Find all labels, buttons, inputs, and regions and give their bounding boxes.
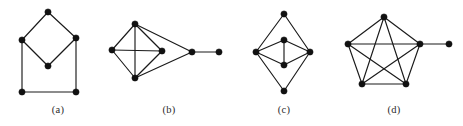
vertex-b-bottom bbox=[132, 75, 138, 81]
edge-a-a-top-a-left bbox=[22, 12, 48, 40]
edge-a-a-right-a-center bbox=[48, 38, 76, 66]
edge-d-d-top-d-left bbox=[348, 17, 384, 44]
vertex-a-center bbox=[45, 63, 51, 69]
vertex-d-bottom-left bbox=[359, 81, 365, 87]
vertex-b-joint bbox=[189, 49, 195, 55]
vertex-b-end bbox=[216, 49, 222, 55]
vertices-layer bbox=[19, 9, 452, 95]
edge-b-b-left-b-top bbox=[112, 24, 135, 50]
vertex-c-right bbox=[307, 49, 313, 55]
edge-a-a-left-a-center bbox=[22, 40, 48, 66]
vertex-b-left bbox=[109, 47, 115, 53]
edge-d-d-top-d-bottom-right bbox=[384, 17, 406, 84]
edge-b-b-bottom-b-mid-right bbox=[135, 51, 162, 78]
edge-b-b-bottom-b-joint bbox=[135, 52, 192, 78]
edge-d-d-right-d-bottom-right bbox=[406, 44, 420, 84]
edge-b-b-top-b-mid-right bbox=[135, 24, 162, 51]
vertex-b-top bbox=[132, 21, 138, 27]
vertex-c-bottom bbox=[281, 88, 287, 94]
edge-d-d-top-d-right bbox=[384, 17, 420, 44]
vertex-c-lower-mid bbox=[281, 62, 287, 68]
edge-b-b-left-b-bottom bbox=[112, 50, 135, 78]
edge-b-b-top-b-joint bbox=[135, 24, 192, 52]
edge-d-d-left-d-bottom-right bbox=[348, 44, 406, 84]
vertex-a-right bbox=[73, 35, 79, 41]
edge-a-a-top-a-right bbox=[48, 12, 76, 38]
edge-d-d-left-d-bottom-left bbox=[348, 44, 362, 84]
edges-layer bbox=[22, 12, 449, 92]
edge-d-d-right-d-bottom-left bbox=[362, 44, 420, 84]
vertex-a-left bbox=[19, 37, 25, 43]
vertex-d-left bbox=[345, 41, 351, 47]
vertex-d-right bbox=[417, 41, 423, 47]
panel-caption-a: (a) bbox=[38, 104, 78, 115]
vertex-c-upper-mid bbox=[281, 37, 287, 43]
panel-caption-c: (c) bbox=[264, 104, 304, 115]
panel-caption-b: (b) bbox=[149, 104, 189, 115]
vertex-c-top bbox=[281, 11, 287, 17]
edge-d-d-top-d-bottom-left bbox=[362, 17, 384, 84]
vertex-c-left bbox=[253, 49, 259, 55]
vertex-d-bottom-right bbox=[403, 81, 409, 87]
vertex-a-top bbox=[45, 9, 51, 15]
vertex-d-pendant bbox=[446, 41, 452, 47]
panel-caption-d: (d) bbox=[374, 104, 414, 115]
vertex-b-mid-right bbox=[159, 48, 165, 54]
vertex-a-bottom-left bbox=[19, 89, 25, 95]
figure-root: (a) (b) (c) (d) bbox=[0, 0, 463, 126]
edge-b-b-left-b-mid-right bbox=[112, 50, 162, 51]
edge-c-c-right-c-bottom bbox=[284, 52, 310, 91]
edge-c-c-left-c-bottom bbox=[256, 52, 284, 91]
vertex-d-top bbox=[381, 14, 387, 20]
vertex-a-bottom-right bbox=[73, 89, 79, 95]
